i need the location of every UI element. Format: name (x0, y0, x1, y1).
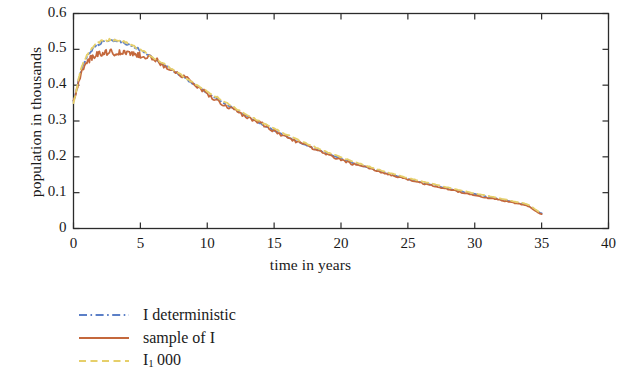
y-axis-label: population in thousands (27, 12, 45, 232)
axis-ticks (74, 14, 609, 229)
series-line (74, 49, 542, 214)
x-tick-label: 30 (445, 235, 505, 252)
legend-item: sample of I (78, 326, 378, 349)
x-tick-label: 0 (44, 235, 104, 252)
series-line (74, 39, 542, 213)
legend-item: I deterministic (78, 303, 378, 326)
chart-figure: 00.10.20.30.40.50.6 0510152025303540 pop… (0, 0, 621, 380)
x-tick-label: 25 (378, 235, 438, 252)
x-tick-label: 40 (579, 235, 621, 252)
chart-legend: I deterministicsample of II1 000 (78, 303, 378, 372)
data-series-group (74, 39, 542, 214)
legend-item: I1 000 (78, 349, 378, 372)
plot-frame (74, 14, 609, 229)
x-tick-label: 15 (244, 235, 304, 252)
x-tick-label: 20 (311, 235, 371, 252)
legend-line-swatch (78, 332, 130, 344)
legend-item-label: I deterministic (143, 306, 236, 324)
legend-line-swatch (78, 309, 130, 321)
x-axis-label: time in years (0, 256, 621, 274)
series-line (74, 40, 542, 214)
legend-line-swatch (78, 355, 130, 367)
legend-item-label: sample of I (143, 329, 215, 347)
x-tick-label: 35 (512, 235, 572, 252)
x-tick-label: 5 (110, 235, 170, 252)
legend-item-label: I1 000 (143, 351, 181, 369)
x-tick-label: 10 (177, 235, 237, 252)
